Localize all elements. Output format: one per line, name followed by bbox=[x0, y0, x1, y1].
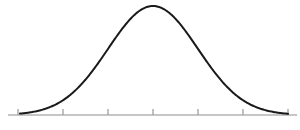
curve-group bbox=[20, 6, 288, 114]
normal-distribution-chart bbox=[0, 0, 300, 130]
x-axis-tick-group bbox=[18, 109, 288, 115]
bell-curve-path bbox=[20, 6, 288, 114]
bell-curve-figure bbox=[0, 0, 300, 130]
axis-group bbox=[8, 109, 297, 115]
